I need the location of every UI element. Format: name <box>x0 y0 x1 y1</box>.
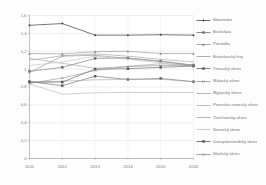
x-axis-tick-label: 2015 <box>148 164 174 169</box>
legend-item[interactable]: Bratislavský kraj <box>196 51 266 63</box>
legend-item[interactable]: Pezinsko-senecký okres <box>196 99 266 111</box>
data-point-marker <box>159 60 162 63</box>
legend-item[interactable]: Dunajskostredský okres <box>196 136 266 148</box>
legend-item-label: Senecký okres <box>213 124 240 136</box>
legend-item[interactable]: Myjavský okres <box>196 87 266 99</box>
data-point-marker <box>202 68 205 71</box>
line-chart: 1,61,41,210,80,60,40,20 2011201220132014… <box>0 0 266 185</box>
data-point-marker <box>202 31 205 34</box>
x-axis-tick-label: 2012 <box>49 164 75 169</box>
data-point-marker <box>94 75 97 78</box>
data-point-marker <box>202 19 205 22</box>
y-axis-tick-label: 0,4 <box>11 120 27 125</box>
legend-item[interactable]: Malacký okres <box>196 75 266 87</box>
legend-marker-icon <box>196 125 211 134</box>
legend-item[interactable]: Trnavský okres <box>196 63 266 75</box>
legend-marker-icon <box>196 16 211 25</box>
legend-item[interactable]: Skalický okres <box>196 148 266 160</box>
legend-item[interactable]: Trenčiansky okres <box>196 112 266 124</box>
data-point-marker <box>61 66 64 69</box>
legend-marker-icon <box>196 137 211 146</box>
legend-item-label: Petržalka <box>213 38 230 50</box>
legend-marker-icon <box>196 150 211 159</box>
legend-item-label: Skalický okres <box>213 148 240 160</box>
data-point-marker <box>127 57 129 60</box>
legend-item-label: Myjavský okres <box>213 87 242 99</box>
legend-marker-icon <box>196 64 211 73</box>
x-axis-tick-label: 2011 <box>17 164 43 169</box>
legend-item[interactable]: Senecký okres <box>196 124 266 136</box>
data-point-marker <box>94 68 97 71</box>
data-point-marker <box>127 67 129 70</box>
legend-marker-icon <box>196 101 211 110</box>
legend-item-label: Pezinsko-senecký okres <box>213 99 258 111</box>
legend-item[interactable]: Petržalka <box>196 38 266 50</box>
legend-item[interactable]: Bratislava <box>196 26 266 38</box>
y-axis-tick-label: 0,6 <box>11 102 27 107</box>
y-axis-tick-label: 0,8 <box>11 84 27 89</box>
legend-marker-icon <box>196 77 211 86</box>
legend-item[interactable]: Slovensko <box>196 14 266 26</box>
data-point-marker <box>28 81 31 84</box>
legend-marker-icon <box>196 89 211 98</box>
legend-marker-icon <box>196 52 211 61</box>
legend-item-label: Dunajskostredský okres <box>213 136 257 148</box>
x-axis-tick-label: 2014 <box>115 164 141 169</box>
plot-area <box>0 0 200 185</box>
legend-marker-icon <box>196 28 211 37</box>
legend-marker-icon <box>196 113 211 122</box>
y-axis-tick-label: 0 <box>11 156 27 161</box>
legend-item-label: Bratislava <box>213 26 231 38</box>
data-point-marker <box>61 81 64 84</box>
legend-item-label: Trnavský okres <box>213 63 241 75</box>
y-axis-tick-label: 1,6 <box>11 13 27 18</box>
data-point-marker <box>61 84 64 87</box>
data-point-marker <box>94 57 97 60</box>
y-axis-tick-label: 1,4 <box>11 31 27 36</box>
legend-item-label: Bratislavský kraj <box>213 51 243 63</box>
y-axis-tick-label: 1 <box>11 67 27 72</box>
y-axis-tick-label: 1,2 <box>11 49 27 54</box>
chart-legend: SlovenskoBratislavaPetržalkaBratislavský… <box>196 14 266 166</box>
legend-marker-icon <box>196 40 211 49</box>
legend-item-label: Slovensko <box>213 14 232 26</box>
legend-item-label: Malacký okres <box>213 75 240 87</box>
data-point-marker <box>202 141 205 144</box>
legend-item-label: Trenčiansky okres <box>213 112 247 124</box>
x-axis-tick-label: 2013 <box>82 164 108 169</box>
y-axis-tick-label: 0,2 <box>11 138 27 143</box>
plot-svg <box>0 0 200 185</box>
